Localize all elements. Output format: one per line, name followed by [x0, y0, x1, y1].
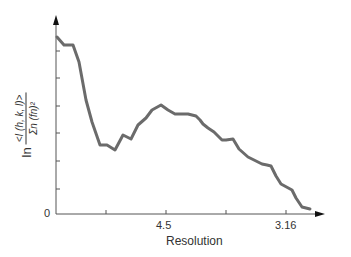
y-origin-label: 0 — [44, 207, 50, 219]
data-series-line — [57, 37, 310, 209]
y-label-numerator: <I (h, k, l)> — [14, 93, 27, 145]
y-label-fraction: <I (h, k, l)> Σn (fn)² — [14, 93, 39, 145]
chart-canvas — [0, 0, 351, 257]
y-label-denominator: Σn (fn)² — [27, 102, 39, 135]
x-axis-arrow-icon — [315, 211, 325, 217]
y-axis-arrow-icon — [53, 15, 59, 25]
x-axis-label: Resolution — [166, 234, 223, 248]
y-axis-label: ln <I (h, k, l)> Σn (fn)² — [6, 70, 46, 180]
x-tick-label-3-16: 3.16 — [275, 219, 296, 231]
x-tick-label-4-5: 4.5 — [156, 219, 171, 231]
y-label-ln: ln — [19, 147, 34, 157]
